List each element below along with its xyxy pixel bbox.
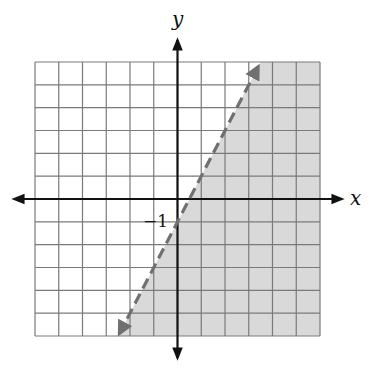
x-axis-label: x (350, 186, 361, 210)
inequality-graph: x y −1 (0, 0, 371, 377)
y-axis-label: y (171, 7, 184, 31)
y-intercept-label: −1 (143, 211, 168, 231)
